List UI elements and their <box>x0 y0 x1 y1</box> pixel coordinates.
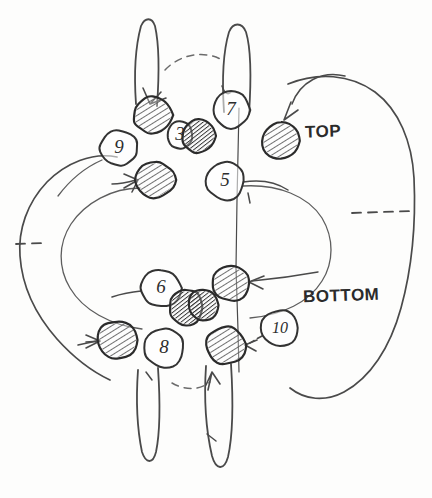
region-label-top: TOP <box>305 121 342 142</box>
arrowhead-bot-to-c7 <box>249 276 264 289</box>
callout-c4[interactable] <box>133 160 177 200</box>
callout-9-label: 9 <box>114 136 124 157</box>
divider-right <box>352 211 414 213</box>
callout-5[interactable]: 5 <box>206 162 244 201</box>
callout-7[interactable]: 7 <box>214 91 251 129</box>
upper-dashed-arc <box>165 55 222 70</box>
hand-drawn-diagram: 93756810 <box>0 0 432 498</box>
left-lobe-top-sweep <box>58 160 102 196</box>
left-lobe-inner-notch <box>61 188 142 329</box>
callout-10-label: 10 <box>272 319 288 336</box>
callout-7-label: 7 <box>226 98 237 119</box>
callout-6-label: 6 <box>156 276 166 297</box>
callout-c3[interactable] <box>260 120 302 162</box>
strip-lower-left <box>137 368 160 461</box>
callout-layer: 93756810 <box>95 91 302 368</box>
callout-c8[interactable] <box>95 319 139 361</box>
callout-8[interactable]: 8 <box>144 329 183 368</box>
region-label-bottom: BOTTOM <box>303 285 380 308</box>
strip-upper-left <box>135 19 159 106</box>
callout-c9[interactable] <box>204 324 248 366</box>
callout-c4-hatch <box>133 160 177 200</box>
arrowhead-top-to-c3 <box>284 102 298 120</box>
tick-lower-left-strip <box>146 372 152 380</box>
callout-8-label: 8 <box>159 336 169 357</box>
leader-6-to-left <box>112 291 141 297</box>
callout-5-label: 5 <box>220 169 230 190</box>
callout-9[interactable]: 9 <box>99 130 137 165</box>
lower-dashed-arc <box>172 382 210 389</box>
diagram-canvas: 93756810 TOPBOTTOM <box>0 0 432 498</box>
callout-10[interactable]: 10 <box>261 310 298 346</box>
leader-bot-dashed <box>206 372 220 390</box>
vertical-strips <box>135 19 250 467</box>
callout-c3-hatch <box>260 120 302 162</box>
divider-left <box>16 243 46 244</box>
tick-5-lobe <box>248 193 250 203</box>
leader-top-to-c3 <box>292 74 345 104</box>
